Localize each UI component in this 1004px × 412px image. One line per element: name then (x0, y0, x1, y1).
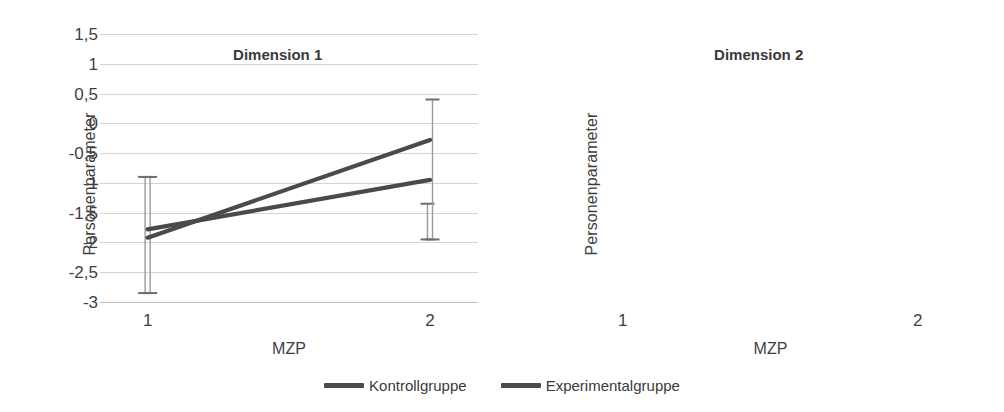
y-tick-label: 1,5 (40, 26, 98, 43)
x-tick-label: 2 (425, 311, 434, 331)
panel-title: Dimension 2 (714, 46, 803, 63)
legend-label: Kontrollgruppe (369, 377, 467, 394)
legend-label: Experimentalgruppe (546, 377, 680, 394)
y-tick-label: -3 (40, 294, 98, 311)
legend-line-icon (501, 383, 541, 388)
chart-figure: Personenparameter 1,510,50-0,5-1-1,5-2-2… (0, 0, 1004, 412)
chart-panel-dimension-1: Personenparameter 1,510,50-0,5-1-1,5-2-2… (0, 0, 502, 368)
series-lines (100, 34, 478, 302)
y-axis-label: Personenparameter (583, 112, 601, 255)
y-axis-tick-labels: 1,510,50-0,5-1-1,5-2-2,5-3 (36, 0, 98, 368)
y-tick-label: 0 (40, 115, 98, 132)
legend-item[interactable]: Kontrollgruppe (324, 377, 467, 394)
y-tick-label: -1 (40, 174, 98, 191)
y-tick-label: -1,5 (40, 204, 98, 221)
panel-title: Dimension 1 (233, 46, 322, 63)
x-tick-label: 1 (143, 311, 152, 331)
plot-area (100, 34, 478, 302)
y-tick-label: -2 (40, 234, 98, 251)
y-tick-label: -0,5 (40, 145, 98, 162)
y-tick-label: -2,5 (40, 264, 98, 281)
x-axis-label: MZP (754, 340, 788, 358)
legend-line-icon (324, 383, 364, 388)
y-tick-label: 0,5 (40, 85, 98, 102)
chart-panel-dimension-2: Personenparameter 1,510,50-0,5-1-1,5-2-2… (502, 0, 1004, 368)
chart-legend: KontrollgruppeExperimentalgruppe (0, 370, 1004, 400)
x-tick-label: 1 (618, 311, 627, 331)
legend-item[interactable]: Experimentalgruppe (501, 377, 680, 394)
y-tick-label: 1 (40, 55, 98, 72)
gridline (100, 302, 478, 303)
x-axis-label: MZP (272, 340, 306, 358)
x-tick-label: 2 (913, 311, 922, 331)
